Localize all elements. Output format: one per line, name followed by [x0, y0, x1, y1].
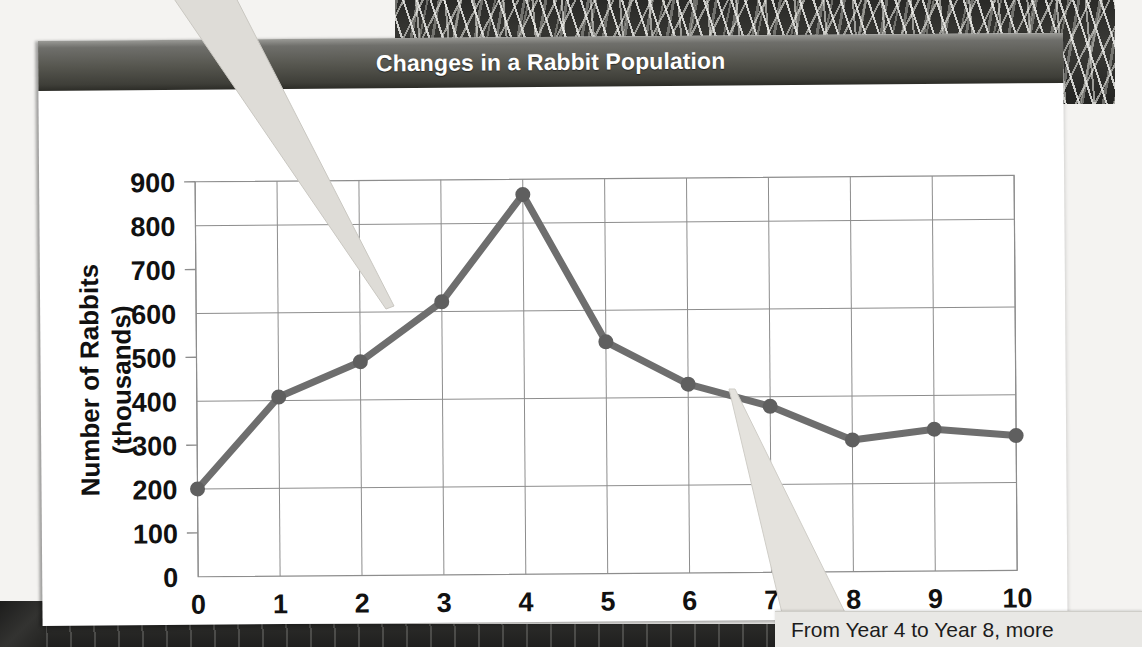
x-gridline: [605, 179, 608, 574]
x-tick-label: 3: [436, 588, 451, 618]
x-gridline: [277, 181, 280, 576]
x-tick-label: 9: [928, 584, 943, 614]
data-point-marker: [598, 334, 613, 349]
x-tick-label: 1: [273, 589, 288, 619]
x-tick-label: 0: [191, 590, 206, 620]
y-tick-label: 200: [132, 475, 177, 505]
data-point-marker: [271, 389, 286, 404]
x-gridline: [932, 176, 935, 571]
chart-panel: Changes in a Rabbit Population 010020030…: [38, 33, 1068, 626]
y-axis-title-line2: (thousands): [106, 305, 137, 454]
y-tick-label: 300: [132, 431, 177, 461]
data-point-marker: [515, 187, 530, 202]
data-point-marker: [763, 399, 778, 414]
y-tick-label: 900: [130, 168, 175, 198]
y-tick-label: 400: [132, 387, 177, 417]
y-tick-label: 600: [131, 300, 176, 330]
x-gridline: [359, 180, 362, 575]
chart-area: 0100200300400500600700800900012345678910…: [38, 83, 1067, 626]
data-point-marker: [681, 377, 696, 392]
data-point-marker: [927, 422, 942, 437]
data-point-marker: [434, 294, 449, 309]
x-tick-label: 4: [518, 587, 533, 617]
caption-callout-box: From Year 4 to Year 8, more: [775, 611, 1142, 647]
data-point-marker: [1009, 428, 1024, 443]
background-photo-bottom-left: [0, 601, 46, 647]
y-tick-label: 700: [131, 256, 176, 286]
x-tick-label: 10: [1002, 583, 1032, 613]
y-tick-label: 500: [131, 343, 176, 373]
data-point-marker: [845, 432, 860, 447]
x-gridline: [523, 179, 526, 574]
x-gridline: [686, 178, 689, 573]
y-tick-label: 100: [133, 519, 178, 549]
x-gridline: [195, 182, 198, 577]
caption-text: From Year 4 to Year 8, more: [791, 618, 1054, 642]
x-gridline: [850, 177, 853, 572]
x-gridline: [441, 180, 444, 575]
x-gridline: [1014, 175, 1017, 570]
y-axis-title-line1: Number of Rabbits: [74, 264, 106, 497]
x-gridline: [768, 177, 771, 572]
x-tick-label: 6: [682, 586, 697, 616]
x-tick-label: 2: [355, 588, 370, 618]
background-photo-bottom-band: [46, 624, 786, 647]
x-tick-label: 5: [600, 586, 615, 616]
y-axis-title: Number of Rabbits(thousands): [74, 263, 138, 496]
page-title: Changes in a Rabbit Population: [376, 47, 725, 77]
line-chart: 0100200300400500600700800900012345678910…: [38, 83, 1067, 626]
y-tick-label: 800: [130, 212, 175, 242]
figure-page: Changes in a Rabbit Population 010020030…: [0, 0, 1142, 647]
y-tick-label: 0: [163, 563, 178, 593]
data-point-marker: [190, 481, 205, 496]
data-point-marker: [353, 354, 368, 369]
chart-title-bar: Changes in a Rabbit Population: [38, 33, 1063, 91]
